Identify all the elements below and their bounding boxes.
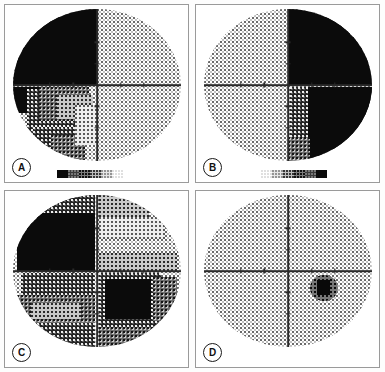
panel-c-inf-nasal-lower xyxy=(29,323,95,347)
axis-tick xyxy=(95,249,100,250)
legend-swatch xyxy=(294,170,305,178)
panel-c: C xyxy=(4,190,189,368)
panel-d-field-clip xyxy=(204,195,372,347)
panel-d-field xyxy=(204,195,372,347)
panel-c-sup-temporal-faint xyxy=(99,217,165,239)
axis-tick xyxy=(334,269,335,274)
panel-c-inf-nasal-light xyxy=(31,303,81,319)
legend-swatch xyxy=(272,170,283,178)
axis-tick xyxy=(120,83,121,88)
axis-tick xyxy=(95,42,100,43)
panel-label-c: C xyxy=(12,343,31,362)
axis-tick xyxy=(240,83,241,88)
legend-swatch xyxy=(90,170,101,178)
axis-tick xyxy=(286,63,291,64)
legend-swatch xyxy=(101,170,112,178)
axis-tick xyxy=(95,127,100,128)
axis-tick xyxy=(49,83,50,88)
legend-swatch xyxy=(316,170,327,178)
panel-a-grayscale-legend xyxy=(57,170,123,178)
blind-spot-core xyxy=(317,280,330,295)
axis-tick xyxy=(286,313,291,314)
panel-a-field-clip xyxy=(13,9,181,161)
panel-c-sup-temporal-band xyxy=(99,253,177,271)
panel-b-vertical-axis xyxy=(287,9,289,161)
panel-b: B xyxy=(195,4,380,183)
panel-c-field-clip xyxy=(13,195,181,347)
axis-tick xyxy=(95,106,100,107)
axis-tick xyxy=(334,83,335,88)
panel-label-b: B xyxy=(203,158,222,177)
axis-tick xyxy=(95,63,100,64)
legend-swatch xyxy=(283,170,294,178)
axis-tick xyxy=(286,106,291,107)
axis-tick xyxy=(73,83,74,88)
axis-tick xyxy=(286,228,291,229)
panel-d-blind-spot xyxy=(310,275,338,301)
panel-a-inferior-faint xyxy=(75,105,97,145)
visual-field-figure: A xyxy=(0,0,385,372)
legend-swatch xyxy=(57,170,68,178)
panel-label-a: A xyxy=(12,158,31,177)
axis-tick xyxy=(264,269,265,274)
axis-tick xyxy=(286,292,291,293)
panel-b-defect-step xyxy=(288,57,372,85)
legend-swatch xyxy=(68,170,79,178)
panel-a-vertical-axis xyxy=(96,9,98,161)
panel-c-sup-nasal-step xyxy=(17,223,95,271)
axis-tick xyxy=(95,313,100,314)
axis-tick xyxy=(143,83,144,88)
panel-a-defect-step xyxy=(13,57,97,85)
panel-label-d: D xyxy=(203,343,222,362)
panel-b-field-clip xyxy=(204,9,372,161)
axis-tick xyxy=(143,269,144,274)
axis-tick xyxy=(311,269,312,274)
panel-b-inferior-edge-mid xyxy=(288,137,310,161)
panel-b-inferior-step xyxy=(310,87,372,161)
legend-swatch xyxy=(261,170,272,178)
axis-tick xyxy=(120,269,121,274)
axis-tick xyxy=(286,127,291,128)
panel-b-field xyxy=(204,9,372,161)
panel-c-field xyxy=(13,195,181,347)
panel-a-field xyxy=(13,9,181,161)
panel-a: A xyxy=(4,4,189,183)
axis-tick xyxy=(95,292,100,293)
panel-d-vertical-axis xyxy=(287,195,289,347)
axis-tick xyxy=(240,269,241,274)
legend-swatch xyxy=(112,170,123,178)
legend-swatch xyxy=(305,170,316,178)
panel-c-vertical-axis xyxy=(96,195,98,347)
axis-tick xyxy=(286,42,291,43)
axis-tick xyxy=(73,269,74,274)
panel-c-sup-nasal-edge xyxy=(43,195,95,213)
panel-b-grayscale-legend xyxy=(261,170,327,178)
axis-tick xyxy=(49,269,50,274)
panel-c-sup-temporal xyxy=(99,195,149,217)
legend-swatch xyxy=(79,170,90,178)
axis-tick xyxy=(286,249,291,250)
panel-d: D xyxy=(195,190,380,368)
panel-c-inf-temporal-low xyxy=(99,327,153,347)
axis-tick xyxy=(264,83,265,88)
axis-tick xyxy=(95,228,100,229)
panel-c-inf-temporal-mid xyxy=(153,277,177,321)
panel-c-inf-temporal-core xyxy=(105,279,151,319)
axis-tick xyxy=(311,83,312,88)
